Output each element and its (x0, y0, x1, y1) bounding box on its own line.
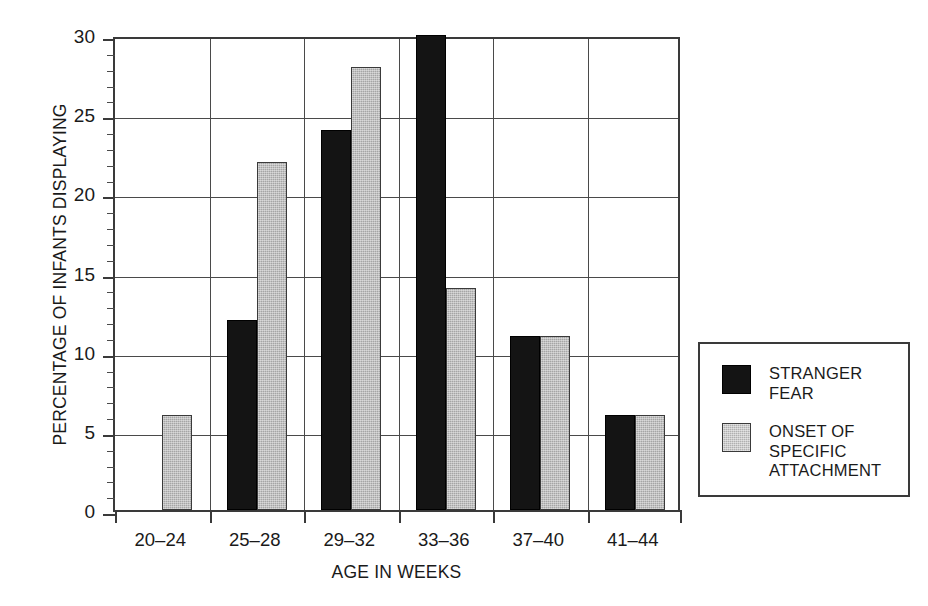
bar (257, 162, 287, 510)
y-tick-minor (107, 166, 115, 167)
legend-entry: ONSET OF SPECIFIC ATTACHMENT (722, 422, 881, 481)
legend-entry: STRANGER FEAR (722, 364, 862, 403)
y-tick-minor (107, 403, 115, 404)
bar (321, 130, 351, 510)
x-tick-label: 25–28 (208, 527, 303, 553)
gridline-vertical (493, 39, 494, 510)
bar (605, 415, 635, 510)
y-tick-minor (107, 182, 115, 183)
y-tick-minor (107, 245, 115, 246)
y-tick-major (103, 514, 115, 516)
x-axis-tick-labels: 20–2425–2829–3233–3637–4041–44 (113, 527, 680, 553)
y-tick-minor (107, 340, 115, 341)
y-axis-tick-labels: 051015202530 (49, 37, 95, 512)
gridline-horizontal (115, 435, 678, 436)
x-tick (399, 510, 401, 523)
y-tick-minor (107, 467, 115, 468)
y-tick-minor (107, 387, 115, 388)
y-tick-label: 20 (49, 185, 95, 204)
y-tick-label: 5 (49, 423, 95, 442)
bar (416, 35, 446, 510)
x-tick-label: 41–44 (586, 527, 681, 553)
y-tick-minor (107, 324, 115, 325)
bar (446, 288, 476, 510)
y-tick-label: 15 (49, 265, 95, 284)
bar (540, 336, 570, 510)
gridline-horizontal (115, 118, 678, 119)
gridline-vertical (210, 39, 211, 510)
x-tick (493, 510, 495, 523)
y-tick-label: 0 (49, 502, 95, 521)
legend-swatch-icon (722, 365, 751, 394)
bar (635, 415, 665, 510)
y-tick-minor (107, 213, 115, 214)
y-tick-label: 30 (49, 27, 95, 46)
x-tick-label: 29–32 (302, 527, 397, 553)
x-tick-label: 33–36 (397, 527, 492, 553)
chart-legend: STRANGER FEARONSET OF SPECIFIC ATTACHMEN… (698, 342, 910, 497)
x-axis-title: AGE IN WEEKS (113, 562, 680, 583)
y-tick-minor (107, 55, 115, 56)
legend-label: ONSET OF SPECIFIC ATTACHMENT (769, 422, 881, 481)
y-tick-major (103, 118, 115, 120)
y-tick-minor (107, 292, 115, 293)
y-tick-minor (107, 419, 115, 420)
bar (162, 415, 192, 510)
y-tick-minor (107, 482, 115, 483)
gridline-horizontal (115, 356, 678, 357)
bar (510, 336, 540, 510)
y-tick-minor (107, 261, 115, 262)
x-tick (304, 510, 306, 523)
y-tick-major (103, 39, 115, 41)
gridline-vertical (588, 39, 589, 510)
y-tick-minor (107, 102, 115, 103)
y-tick-minor (107, 229, 115, 230)
x-tick (115, 510, 117, 523)
y-tick-minor (107, 87, 115, 88)
y-tick-minor (107, 372, 115, 373)
gridline-vertical (304, 39, 305, 510)
plot-area (113, 37, 680, 512)
legend-label: STRANGER FEAR (769, 364, 862, 403)
bar (227, 320, 257, 510)
x-tick-label: 20–24 (113, 527, 208, 553)
gridline-horizontal (115, 277, 678, 278)
y-tick-minor (107, 150, 115, 151)
gridline-vertical (399, 39, 400, 510)
y-tick-minor (107, 451, 115, 452)
x-tick (210, 510, 212, 523)
bar (351, 67, 381, 510)
y-tick-label: 25 (49, 106, 95, 125)
legend-swatch-icon (722, 423, 751, 452)
bar-chart-figure: PERCENTAGE OF INFANTS DISPLAYING 0510152… (0, 0, 928, 606)
y-tick-minor (107, 498, 115, 499)
x-tick (680, 510, 682, 523)
y-tick-minor (107, 308, 115, 309)
x-tick-label: 37–40 (491, 527, 586, 553)
y-tick-minor (107, 134, 115, 135)
y-tick-major (103, 435, 115, 437)
x-tick (588, 510, 590, 523)
y-tick-minor (107, 71, 115, 72)
y-tick-major (103, 197, 115, 199)
y-tick-label: 10 (49, 344, 95, 363)
y-tick-major (103, 277, 115, 279)
y-tick-major (103, 356, 115, 358)
gridline-horizontal (115, 197, 678, 198)
